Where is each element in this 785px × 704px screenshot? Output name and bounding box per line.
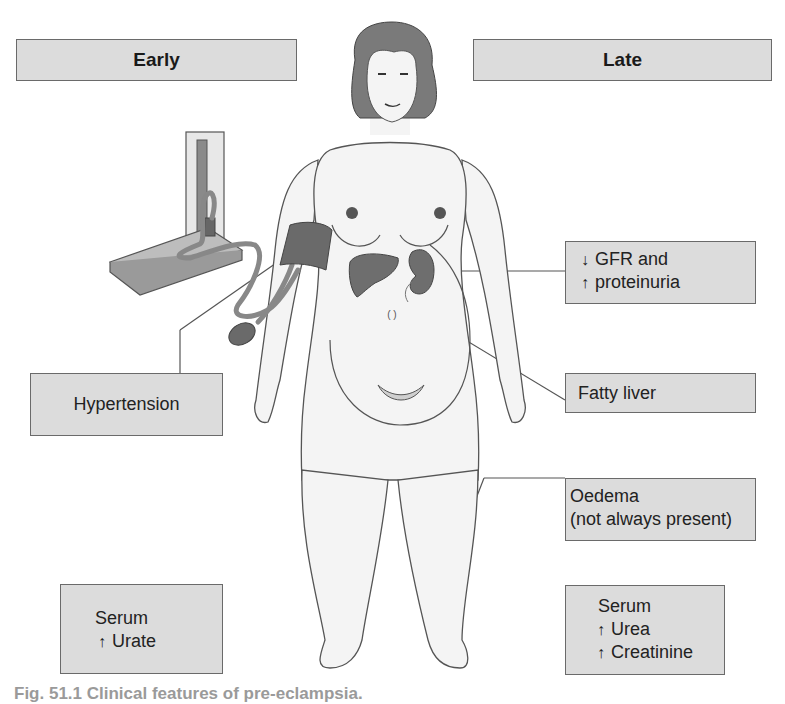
late-header: Late [473, 39, 772, 81]
fatty-liver-label: Fatty liver [565, 373, 756, 413]
nipple-left-icon [346, 207, 358, 219]
kidney-icon [409, 250, 434, 294]
oedema-label: Oedema (not always present) [565, 478, 756, 541]
up-arrow-icon: ↑ [578, 271, 592, 294]
woman-body-icon [255, 110, 526, 668]
up-arrow-icon: ↑ [594, 641, 608, 664]
serum-urea-creatinine-label: Serum ↑Urea ↑Creatinine [565, 585, 725, 675]
up-arrow-icon: ↑ [95, 630, 109, 653]
nipple-right-icon [434, 207, 446, 219]
early-header: Early [16, 39, 297, 81]
down-arrow-icon: ↓ [578, 248, 592, 271]
hypertension-label: Hypertension [30, 373, 223, 436]
early-header-label: Early [133, 49, 179, 71]
inflation-bulb-icon [225, 318, 259, 349]
svg-text:( ): ( ) [387, 309, 396, 320]
serum-urate-label: Serum ↑Urate [60, 584, 223, 674]
late-header-label: Late [603, 49, 642, 71]
sphygmomanometer-icon [110, 132, 242, 295]
figure-caption: Fig. 51.1 Clinical features of pre-eclam… [14, 684, 363, 704]
head-icon [352, 22, 437, 122]
up-arrow-icon: ↑ [594, 618, 608, 641]
gfr-proteinuria-label: ↓GFR and ↑proteinuria [565, 241, 756, 304]
